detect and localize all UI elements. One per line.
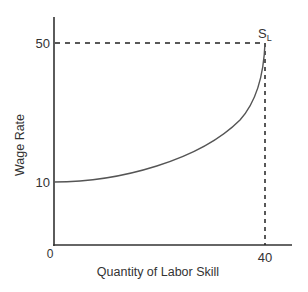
x-axis-label: Quantity of Labor Skill: [97, 265, 219, 279]
y-axis-label: Wage Rate: [13, 114, 27, 176]
x-tick-0: 0: [47, 247, 54, 261]
chart-canvas: 50 10 0 40 Quantity of Labor Skill Wage …: [0, 0, 308, 292]
supply-curve: [54, 43, 265, 182]
chart: 50 10 0 40 Quantity of Labor Skill Wage …: [0, 0, 308, 292]
y-tick-10: 10: [36, 175, 50, 190]
x-tick-40: 40: [258, 250, 272, 265]
series-label: SL: [258, 26, 272, 43]
y-tick-50: 50: [36, 36, 50, 51]
